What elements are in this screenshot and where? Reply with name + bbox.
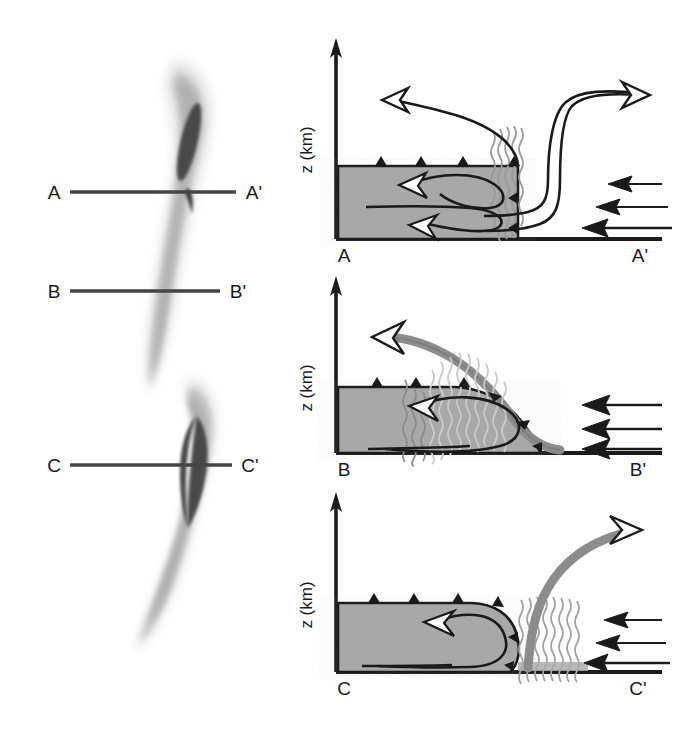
section-label-b-prime: B' — [630, 459, 646, 480]
section-label-b: B — [338, 459, 351, 480]
z-axis-label-bb: z (km) — [297, 364, 316, 411]
z-axis-label-cc: z (km) — [297, 581, 316, 628]
plan-label-c-prime: C' — [241, 455, 258, 476]
section-label-a-prime: A' — [632, 245, 648, 266]
plan-label-b-prime: B' — [230, 281, 246, 302]
plan-label-a: A — [48, 182, 61, 203]
section-label-c: C — [337, 678, 351, 699]
plan-label-c: C — [47, 455, 61, 476]
z-axis-label-aa: z (km) — [297, 126, 316, 173]
plan-label-a-prime: A' — [246, 182, 262, 203]
plan-label-b: B — [48, 281, 61, 302]
section-label-a: A — [338, 245, 351, 266]
conceptual-diagram-figure: A A' B B' C C' z (km) — [0, 0, 680, 729]
section-label-c-prime: C' — [629, 678, 646, 699]
